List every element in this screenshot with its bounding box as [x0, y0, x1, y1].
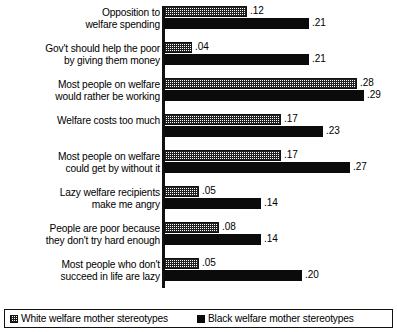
bar-group: .28.29 [164, 76, 397, 112]
bar-value-label: .14 [261, 233, 278, 245]
bar-line: .08 [164, 222, 397, 233]
bar-value-label: .28 [357, 77, 374, 89]
bar-group: .12.21 [164, 4, 397, 40]
chart-legend: White welfare mother stereotypes Black w… [4, 309, 393, 328]
category-label: Welfare costs too much [0, 112, 160, 127]
bar-line: .14 [164, 198, 397, 209]
bar-white-stereotypes [164, 114, 281, 125]
bar-group: .08.14 [164, 220, 397, 256]
bar-value-label: .05 [199, 257, 216, 269]
category-label: Opposition to welfare spending [0, 4, 160, 30]
legend-item-black-stereotypes: Black welfare mother stereotypes [197, 313, 354, 324]
bar-white-stereotypes [164, 258, 199, 269]
category-label: Gov't should help the poor by giving the… [0, 40, 160, 66]
bar-line: .28 [164, 78, 397, 89]
grouped-bar-chart: Opposition to welfare spending.12.21Gov'… [0, 0, 397, 332]
bar-black-stereotypes [164, 54, 309, 65]
bar-group: .04.21 [164, 40, 397, 76]
bar-value-label: .08 [219, 221, 236, 233]
bar-line: .17 [164, 114, 397, 125]
bar-group: .17.23 [164, 112, 397, 148]
bar-value-label: .05 [199, 185, 216, 197]
category-row: Opposition to welfare spending.12.21 [0, 4, 397, 40]
bar-black-stereotypes [164, 126, 323, 137]
legend-label-black: Black welfare mother stereotypes [208, 313, 354, 324]
bar-line: .05 [164, 186, 397, 197]
bar-value-label: .29 [364, 89, 381, 101]
category-label: Most people on welfare could get by with… [0, 148, 160, 174]
bar-black-stereotypes [164, 234, 261, 245]
bar-value-label: .20 [302, 269, 319, 281]
bar-value-label: .04 [192, 41, 209, 53]
legend-swatch-checkered-icon [10, 315, 18, 323]
bar-value-label: .12 [247, 5, 264, 17]
bar-white-stereotypes [164, 42, 192, 53]
legend-label-white: White welfare mother stereotypes [21, 313, 168, 324]
bar-value-label: .21 [309, 53, 326, 65]
bar-black-stereotypes [164, 162, 350, 173]
category-row: Lazy welfare recipients make me angry.05… [0, 184, 397, 220]
bar-group: .17.27 [164, 148, 397, 184]
category-row: People are poor because they don't try h… [0, 220, 397, 256]
bar-line: .20 [164, 270, 397, 281]
category-row: Welfare costs too much.17.23 [0, 112, 397, 148]
bar-line: .21 [164, 54, 397, 65]
bar-black-stereotypes [164, 198, 261, 209]
category-row: Most people on welfare could get by with… [0, 148, 397, 184]
category-row: Most people on welfare would rather be w… [0, 76, 397, 112]
bar-black-stereotypes [164, 270, 302, 281]
category-row: Most people who don't succeed in life ar… [0, 256, 397, 292]
bar-black-stereotypes [164, 18, 309, 29]
legend-swatch-solid-icon [197, 315, 205, 323]
bar-group: .05.14 [164, 184, 397, 220]
category-label: People are poor because they don't try h… [0, 220, 160, 246]
bar-value-label: .23 [323, 125, 340, 137]
bar-white-stereotypes [164, 6, 247, 17]
bar-line: .23 [164, 126, 397, 137]
bar-line: .27 [164, 162, 397, 173]
category-label: Most people on welfare would rather be w… [0, 76, 160, 102]
plot-area: Opposition to welfare spending.12.21Gov'… [0, 4, 397, 292]
category-label: Lazy welfare recipients make me angry [0, 184, 160, 210]
category-row: Gov't should help the poor by giving the… [0, 40, 397, 76]
bar-line: .04 [164, 42, 397, 53]
bar-value-label: .14 [261, 197, 278, 209]
category-label: Most people who don't succeed in life ar… [0, 256, 160, 282]
bar-white-stereotypes [164, 78, 357, 89]
bar-value-label: .27 [350, 161, 367, 173]
bar-line: .17 [164, 150, 397, 161]
bar-line: .12 [164, 6, 397, 17]
bar-white-stereotypes [164, 150, 281, 161]
bar-value-label: .17 [281, 113, 298, 125]
bar-value-label: .17 [281, 149, 298, 161]
bar-value-label: .21 [309, 17, 326, 29]
bar-white-stereotypes [164, 186, 199, 197]
bar-line: .29 [164, 90, 397, 101]
legend-item-white-stereotypes: White welfare mother stereotypes [10, 313, 168, 324]
bar-line: .05 [164, 258, 397, 269]
bar-white-stereotypes [164, 222, 219, 233]
bar-black-stereotypes [164, 90, 364, 101]
bar-line: .21 [164, 18, 397, 29]
bar-line: .14 [164, 234, 397, 245]
bar-group: .05.20 [164, 256, 397, 292]
